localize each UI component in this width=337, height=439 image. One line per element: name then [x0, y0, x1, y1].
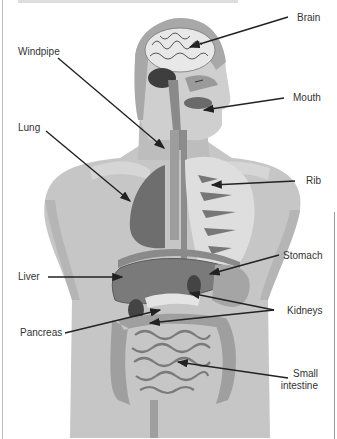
label-kidneys: Kidneys [287, 305, 323, 317]
label-small-intestine: Small intestine [278, 368, 318, 392]
label-windpipe: Windpipe [18, 46, 60, 58]
label-liver: Liver [18, 271, 40, 283]
kidney-right [187, 275, 201, 295]
brain [145, 28, 215, 72]
label-brain: Brain [297, 12, 320, 24]
windpipe [170, 130, 179, 240]
label-small-intestine-line2: intestine [278, 380, 318, 392]
label-small-intestine-line1: Small [278, 368, 318, 380]
mouth-cavity [184, 97, 212, 109]
label-stomach: Stomach [283, 250, 322, 262]
diagram-frame: Brain Windpipe Mouth Lung Rib Stomach Li… [0, 0, 337, 439]
label-lung: Lung [18, 122, 40, 134]
label-pancreas: Pancreas [20, 327, 62, 339]
label-rib: Rib [306, 175, 321, 187]
label-mouth: Mouth [293, 92, 321, 104]
